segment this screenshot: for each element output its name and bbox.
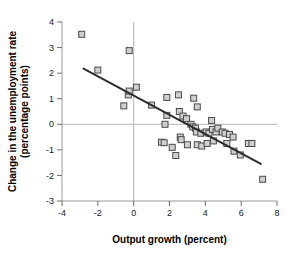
data-point-marker: [230, 134, 236, 140]
data-point-marker: [161, 140, 167, 146]
data-point-marker: [191, 95, 197, 101]
y-tick-label: 0: [49, 119, 54, 129]
x-axis-title: Output growth (percent): [112, 234, 226, 245]
x-tick-label: 4: [203, 208, 208, 218]
data-point-marker: [184, 142, 190, 148]
y-tick-label: -2: [46, 171, 54, 181]
data-point-marker: [184, 116, 190, 122]
data-point-marker: [162, 121, 168, 127]
chart-canvas: -3-2-101234-4-202468Output growth (perce…: [0, 0, 295, 254]
data-point-group: [79, 31, 266, 182]
data-point-marker: [79, 31, 85, 37]
y-axis-title-line2: (percentage points): [19, 65, 30, 158]
x-tick-label: 6: [239, 208, 244, 218]
okun-law-scatter-figure: -3-2-101234-4-202468Output growth (perce…: [0, 0, 295, 254]
data-point-marker: [249, 140, 255, 146]
x-tick-label: 2: [167, 208, 172, 218]
data-point-marker: [178, 137, 184, 143]
y-tick-label: 1: [49, 94, 54, 104]
x-tick-label: 0: [131, 208, 136, 218]
data-point-marker: [133, 84, 139, 90]
y-tick-label: -3: [46, 196, 54, 206]
y-tick-label: 2: [49, 68, 54, 78]
data-point-marker: [169, 144, 175, 150]
y-axis-title-line1: Change in the unemployment rate: [7, 30, 18, 192]
y-tick-label: -1: [46, 145, 54, 155]
y-tick-label: 4: [49, 17, 54, 27]
data-point-marker: [164, 94, 170, 100]
data-point-marker: [175, 92, 181, 98]
y-tick-label: 3: [49, 43, 54, 53]
data-point-marker: [121, 103, 127, 109]
data-point-marker: [95, 67, 101, 73]
x-tick-label: -2: [94, 208, 102, 218]
data-point-marker: [260, 176, 266, 182]
data-point-marker: [173, 152, 179, 158]
x-tick-label: 8: [274, 208, 279, 218]
data-point-marker: [126, 48, 132, 54]
data-point-marker: [204, 140, 210, 146]
data-point-marker: [209, 117, 215, 123]
x-tick-label: -4: [58, 208, 66, 218]
data-point-marker: [194, 104, 200, 110]
